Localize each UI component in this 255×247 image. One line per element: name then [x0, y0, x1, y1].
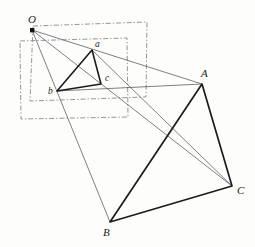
label-c: c	[105, 74, 109, 84]
projection-rays-group	[32, 30, 232, 222]
label-B: B	[103, 227, 110, 238]
figure-canvas	[0, 0, 255, 247]
geometry-figure: O a b c A B C	[0, 0, 255, 247]
triangle-abc	[57, 50, 101, 91]
label-O: O	[28, 14, 36, 25]
label-A: A	[201, 68, 208, 79]
label-b: b	[48, 87, 53, 97]
ray-O-b-B	[32, 30, 110, 222]
cross-line-a-C	[92, 50, 232, 186]
dashed-frame-lower	[20, 38, 128, 119]
center-point-O	[30, 28, 34, 32]
label-a: a	[95, 40, 100, 50]
label-C: C	[237, 185, 244, 196]
ray-O-c-C	[32, 30, 232, 186]
